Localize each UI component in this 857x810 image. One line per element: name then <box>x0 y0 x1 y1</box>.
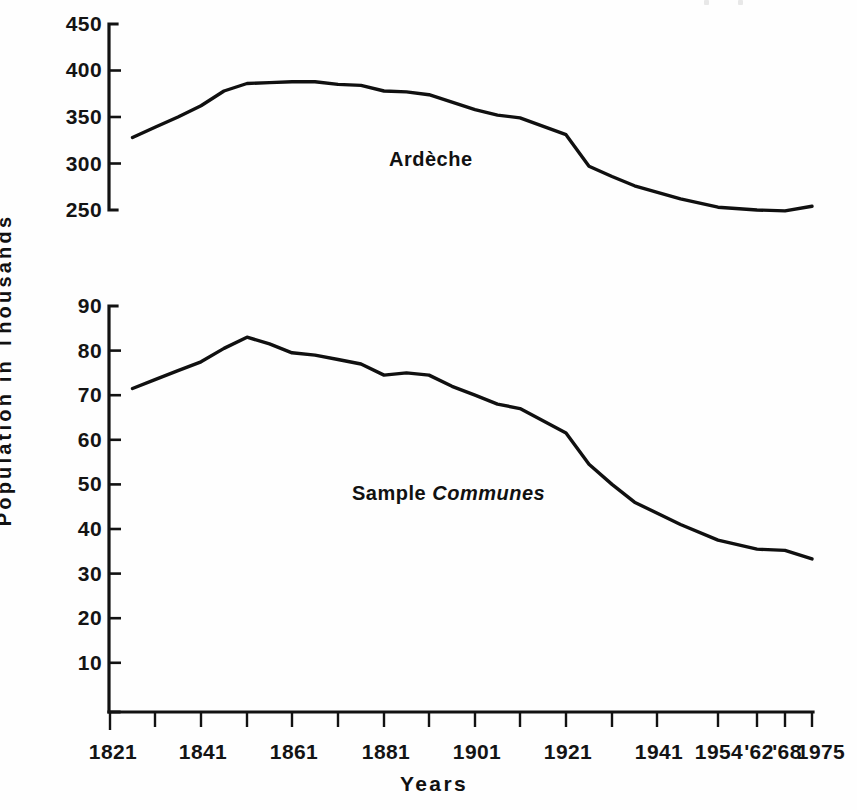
xtick-label-1962: '62 <box>744 740 774 764</box>
xtick-label-1821: 1821 <box>89 740 137 764</box>
xtick-label-1941: 1941 <box>635 740 683 764</box>
bottom-ytick-label-20: 20 <box>6 606 102 630</box>
bottom-panel-axis <box>109 306 121 712</box>
series-annotation-ardeche: Ardèche <box>389 148 473 171</box>
chart-canvas <box>0 0 857 810</box>
y-axis-title: Population in Thousands <box>0 160 16 580</box>
series-line-sample-communes <box>133 337 813 559</box>
bottom-ytick-label-90: 90 <box>6 294 102 318</box>
y-axis-title-text: Population in Thousands <box>0 160 16 580</box>
xtick-label-1975: 1975 <box>797 740 845 764</box>
series-annotation-plain-part: Sample <box>352 482 426 504</box>
xtick-label-1881: 1881 <box>362 740 410 764</box>
xtick-label-1901: 1901 <box>453 740 501 764</box>
xtick-label-1861: 1861 <box>270 740 318 764</box>
top-ytick-label-450: 450 <box>6 12 102 36</box>
series-line-ardeche <box>133 82 813 211</box>
bottom-ytick-label-50: 50 <box>6 472 102 496</box>
top-ytick-label-250: 250 <box>6 198 102 222</box>
top-ytick-label-350: 350 <box>6 105 102 129</box>
bottom-axis-spine <box>109 306 119 712</box>
top-panel-series-group <box>133 82 813 211</box>
bottom-ytick-label-10: 10 <box>6 651 102 675</box>
x-axis <box>109 712 813 730</box>
series-annotation-sample-communes: Sample Communes <box>352 482 545 505</box>
xtick-label-1841: 1841 <box>179 740 227 764</box>
bottom-ytick-label-30: 30 <box>6 562 102 586</box>
top-ytick-label-300: 300 <box>6 152 102 176</box>
bottom-panel-series-group <box>133 337 813 559</box>
x-axis-title: Years <box>400 772 468 796</box>
bottom-ytick-label-80: 80 <box>6 339 102 363</box>
xtick-label-1921: 1921 <box>544 740 592 764</box>
top-panel-axis <box>109 24 121 210</box>
bottom-ytick-label-70: 70 <box>6 383 102 407</box>
bottom-ytick-label-60: 60 <box>6 428 102 452</box>
xtick-label-1954: 1954 <box>695 740 743 764</box>
series-annotation-emphasis-part: Communes <box>432 482 545 504</box>
top-ytick-label-400: 400 <box>6 58 102 82</box>
bottom-ytick-label-40: 40 <box>6 517 102 541</box>
population-chart-figure: 450 400 350 300 250 90 80 70 60 50 40 30… <box>0 0 857 810</box>
